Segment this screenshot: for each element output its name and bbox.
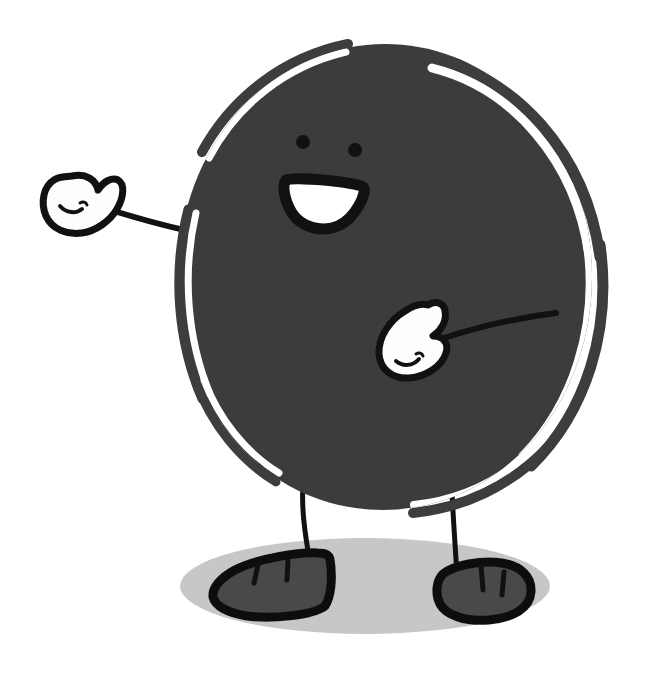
right-shoe-lace-1 [481, 566, 483, 590]
left-hand-mitten [43, 175, 123, 233]
body-group [178, 44, 603, 513]
left-hand [43, 175, 123, 233]
left-eye [296, 135, 310, 149]
right-eye [348, 143, 362, 157]
illustration-canvas: Smiling round character waving [0, 0, 645, 689]
right-shoe [437, 562, 531, 620]
character-illustration [0, 0, 645, 689]
right-shoe-lace-2 [502, 572, 504, 595]
left-shoe-lace-2 [287, 560, 288, 580]
mouth [284, 179, 364, 229]
